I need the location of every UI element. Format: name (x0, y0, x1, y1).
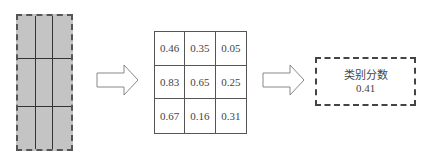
feature-map-cell (36, 59, 54, 107)
feature-map-grid (18, 16, 71, 149)
right-arrow-icon (96, 64, 140, 96)
right-arrow-icon (262, 64, 306, 96)
feature-map-cell (18, 16, 36, 59)
class-score-box: 类别分数 0.41 (315, 57, 416, 106)
score-cell: 0.83 (155, 66, 185, 100)
class-score-label: 类别分数 (344, 69, 388, 82)
score-cell: 0.35 (185, 32, 215, 66)
score-grid: 0.46 0.35 0.05 0.83 0.65 0.25 0.67 0.16 … (154, 31, 247, 134)
score-cell: 0.46 (155, 32, 185, 66)
feature-map-cell (18, 107, 36, 149)
feature-map-cell (36, 107, 54, 149)
score-cell: 0.67 (155, 99, 185, 133)
score-cell: 0.05 (216, 32, 246, 66)
feature-map (16, 14, 73, 151)
feature-map-cell (36, 16, 54, 59)
score-cell: 0.65 (185, 66, 215, 100)
score-cell: 0.25 (216, 66, 246, 100)
score-cell: 0.31 (216, 99, 246, 133)
feature-map-cell (53, 107, 71, 149)
feature-map-cell (18, 59, 36, 107)
score-cell: 0.16 (185, 99, 215, 133)
feature-map-cell (53, 16, 71, 59)
class-score-value: 0.41 (356, 82, 375, 95)
feature-map-cell (53, 59, 71, 107)
